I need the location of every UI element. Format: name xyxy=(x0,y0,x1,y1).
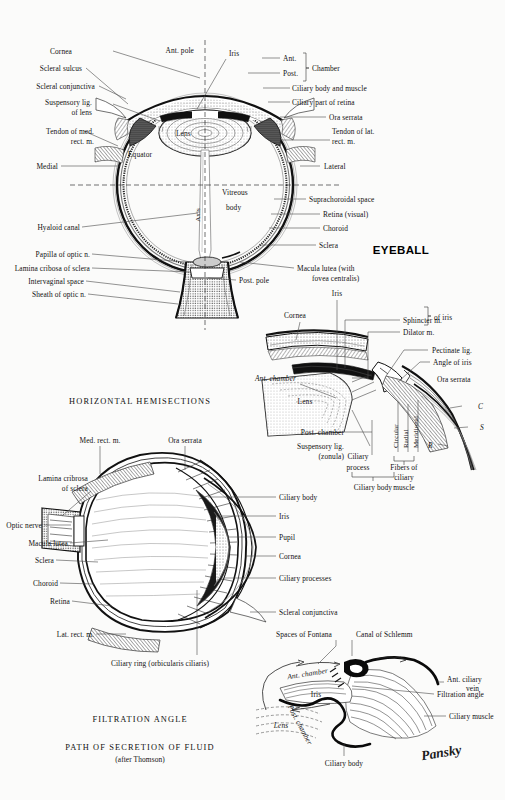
label-ciliary-body-muscle: Ciliary body and muscle xyxy=(292,84,367,93)
label-scleral-conjunctiva-2: Scleral conjunctiva xyxy=(279,608,338,617)
label-ora-serrata-2: Ora serrata xyxy=(437,375,471,384)
label-ciliary-process-2: process xyxy=(347,463,370,472)
label-lens-1: Lens xyxy=(176,129,191,138)
label-macula-lutea-2: Macula lutea xyxy=(28,539,68,548)
label-iris-3: Iris xyxy=(279,512,289,521)
label-optic-nerve: Optic nerve xyxy=(6,521,42,530)
label-cornea-2: Cornea xyxy=(284,311,307,320)
label-choroid-1: Choroid xyxy=(323,224,348,233)
label-suspensory-lig-2: of lens xyxy=(71,108,92,117)
label-meridional: Meridional xyxy=(412,416,420,448)
label-cornea-3: Cornea xyxy=(279,552,302,561)
label-pectinate-lig: Pectinate lig. xyxy=(432,346,472,355)
label-med-rect-m: Med. rect. m. xyxy=(80,436,121,445)
label-ant-chamber-short: Ant. xyxy=(283,54,296,63)
label-tendon-lat-rect-2: rect. m. xyxy=(332,137,355,146)
label-lateral: Lateral xyxy=(324,162,346,171)
label-retina-2: Retina xyxy=(50,597,71,606)
label-dilator-m: Dilator m. xyxy=(403,328,434,337)
label-ciliary-body-2: Ciliary body xyxy=(354,483,393,492)
label-papilla-optic-n: Papilla of optic n. xyxy=(36,250,90,259)
label-suprachoroidal-space: Suprachoroidal space xyxy=(309,195,375,204)
label-ciliary-processes: Ciliary processes xyxy=(279,574,331,583)
label-cornea: Cornea xyxy=(50,47,73,56)
label-tendon-lat-rect: Tendon of lat. xyxy=(332,127,375,136)
label-lamina-cribrosa-3: of sclera xyxy=(62,484,89,493)
label-medial: Medial xyxy=(36,162,58,171)
label-c: C xyxy=(478,402,483,411)
label-lamina-cribosa: Lamina cribosa of sclera xyxy=(15,264,91,273)
label-post-pole: Post. pole xyxy=(239,276,270,285)
plate-svg: Cornea Scleral sulcus Scleral conjunctiv… xyxy=(0,0,505,800)
label-macula-lutea-2: fovea centralis) xyxy=(312,274,360,283)
label-macula-lutea-1: Macula lutea (with xyxy=(297,264,355,273)
label-spaces-of-fontana: Spaces of Fontana xyxy=(276,630,333,639)
label-angle-of-iris: Angle of iris xyxy=(433,358,472,367)
label-ant-chamber-2: Ant. chamber xyxy=(254,374,296,383)
label-vitreous-body: body xyxy=(226,203,241,212)
label-tendon-med-rect: Tendon of med. xyxy=(46,127,94,136)
label-iris-1: Iris xyxy=(229,49,239,58)
label-scleral-sulcus: Scleral sulcus xyxy=(40,64,82,73)
label-filtration-angle-lbl: Filtration angle xyxy=(437,690,485,699)
caption-filtration-angle: FILTRATION ANGLE xyxy=(92,715,187,724)
label-ora-serrata-3: Ora serrata xyxy=(168,436,202,445)
label-iris-2: Iris xyxy=(332,289,342,298)
label-lat-rect-m: Lat. rect. m. xyxy=(57,630,94,639)
title-eyeball: EYEBALL xyxy=(373,244,429,256)
label-post-chamber-2: Post. chamber xyxy=(301,428,345,437)
label-ciliary-body-3: Ciliary body xyxy=(279,493,318,502)
anatomy-plate: Cornea Scleral sulcus Scleral conjunctiv… xyxy=(0,0,505,800)
label-fibers-ciliary: ciliary xyxy=(394,473,414,482)
label-s: S xyxy=(480,423,484,432)
label-tendon-med-rect-2: rect. m. xyxy=(71,137,94,146)
label-lamina-cribrosa-2: Lamina cribrosa xyxy=(38,474,88,483)
caption-after-thomson: (after Thomson) xyxy=(115,755,165,764)
label-fibers-muscle: muscle xyxy=(393,483,415,492)
label-ciliary-process: Ciliary xyxy=(347,452,368,461)
title-horizontal-hemisections: HORIZONTAL HEMISECTIONS xyxy=(69,397,211,406)
label-hyaloid-canal: Hyaloid canal xyxy=(37,223,80,232)
label-suspensory-lig: Suspensory lig. xyxy=(45,98,92,107)
label-radial: Radial xyxy=(402,429,410,448)
label-ant-pole: Ant. pole xyxy=(166,46,195,55)
label-iris-4: Iris xyxy=(311,690,321,699)
label-circular: Circular xyxy=(392,424,400,448)
label-r: R xyxy=(427,441,433,450)
label-sclera-2: Sclera xyxy=(35,556,55,565)
label-axis: Axis xyxy=(194,208,202,222)
label-sheath-optic-n: Sheath of optic n. xyxy=(32,290,86,299)
label-choroid-2: Choroid xyxy=(33,579,58,588)
label-suspensory-lig-zonula: Suspensory lig. xyxy=(297,442,344,451)
label-of-iris: of iris xyxy=(434,313,452,322)
label-lens-3: Lens xyxy=(273,721,288,730)
label-chamber: Chamber xyxy=(312,64,340,73)
label-ora-serrata-1: Ora serrata xyxy=(329,113,363,122)
label-ciliary-body-4: Ciliary body xyxy=(325,759,364,768)
label-ciliary-muscle: Ciliary muscle xyxy=(449,712,494,721)
label-vitreous: Vitreous xyxy=(222,188,248,197)
label-ciliary-ring: Ciliary ring (orbicularis ciliaris) xyxy=(111,659,210,668)
label-post-chamber-short: Post. xyxy=(283,69,298,78)
label-sclera-1: Sclera xyxy=(319,241,339,250)
label-scleral-conjunctiva: Scleral conjunctiva xyxy=(36,82,95,91)
label-equator: Equator xyxy=(128,150,153,159)
label-intervaginal-space: Intervaginal space xyxy=(28,277,84,286)
label-lens-2: Lens xyxy=(298,397,313,406)
label-pupil: Pupil xyxy=(279,533,295,542)
label-canal-of-schlemm: Canal of Schlemm xyxy=(356,630,413,639)
caption-path-of-secretion: PATH OF SECRETION OF FLUID xyxy=(65,743,214,752)
label-ant-ciliary: Ant. ciliary xyxy=(447,675,482,684)
label-fibers-of: Fibers of xyxy=(390,463,418,472)
label-zonula: (zonula) xyxy=(319,452,345,461)
label-ciliary-part-retina: Ciliary part of retina xyxy=(292,98,355,107)
label-retina-visual: Retina (visual) xyxy=(323,210,369,219)
